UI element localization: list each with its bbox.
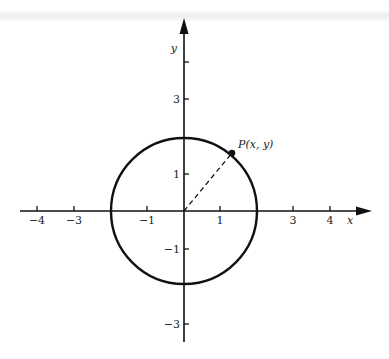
point-p-label-args: (x, y) <box>245 138 273 151</box>
x-axis-label: x <box>347 214 354 227</box>
x-tick-label: −4 <box>29 214 45 227</box>
point-p <box>229 150 236 157</box>
x-axis-arrow-icon <box>356 207 372 216</box>
y-tick-label: −3 <box>164 318 180 331</box>
y-axis-label: y <box>170 42 178 55</box>
coordinate-diagram: −4 −3 −1 1 3 4 x y 3 1 −1 −3 P(x, y) <box>0 0 389 359</box>
y-axis <box>180 18 190 342</box>
x-tick-label: 3 <box>290 214 297 227</box>
x-tick-label: 4 <box>327 214 334 227</box>
y-tick-label: −1 <box>164 243 180 256</box>
point-p-label: P(x, y) <box>237 138 273 151</box>
y-tick-label: 1 <box>173 168 180 181</box>
x-tick-label: 1 <box>217 214 224 227</box>
y-axis-arrow-icon <box>180 18 189 34</box>
dashed-radius-segment <box>184 153 232 211</box>
x-tick-label: −3 <box>66 214 82 227</box>
y-tick-label: 3 <box>173 93 180 106</box>
x-tick-label: −1 <box>139 214 155 227</box>
